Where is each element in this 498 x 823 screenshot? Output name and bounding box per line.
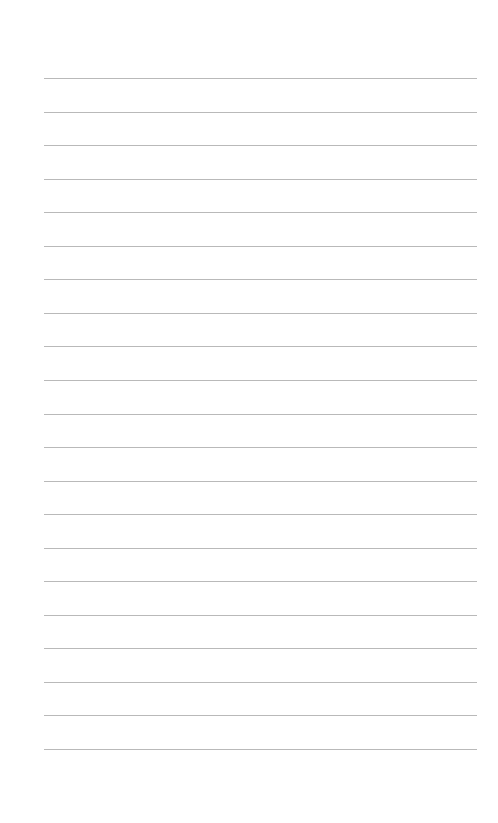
- ruled-line: [44, 313, 477, 314]
- ruled-line: [44, 414, 477, 415]
- ruled-line: [44, 682, 477, 683]
- ruled-line: [44, 715, 477, 716]
- ruled-line: [44, 481, 477, 482]
- lined-paper-page: [0, 0, 498, 823]
- ruled-line: [44, 279, 477, 280]
- ruled-line: [44, 179, 477, 180]
- ruled-line: [44, 749, 477, 750]
- ruled-line: [44, 346, 477, 347]
- ruled-line: [44, 78, 477, 79]
- ruled-line: [44, 581, 477, 582]
- ruled-line: [44, 514, 477, 515]
- ruled-line: [44, 145, 477, 146]
- ruled-line: [44, 615, 477, 616]
- ruled-line: [44, 212, 477, 213]
- ruled-line: [44, 648, 477, 649]
- ruled-line: [44, 380, 477, 381]
- ruled-line: [44, 112, 477, 113]
- ruled-line: [44, 447, 477, 448]
- ruled-line: [44, 548, 477, 549]
- ruled-line: [44, 246, 477, 247]
